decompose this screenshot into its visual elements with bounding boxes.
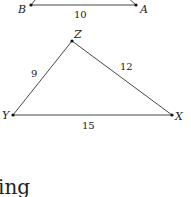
label-x: X [174, 110, 184, 123]
side-zy [13, 41, 72, 115]
triangle-xyz: Z Y X 9 12 15 [2, 28, 184, 131]
vertex-a [134, 3, 137, 6]
side-label-ba: 10 [74, 9, 87, 20]
side-zx [72, 41, 172, 115]
label-a: A [139, 3, 148, 16]
vertex-y [11, 113, 14, 116]
triangle-bac: B A 10 [17, 0, 148, 20]
triangle-figures: B A 10 Z Y X 9 12 15 [0, 0, 191, 197]
label-b: B [17, 3, 26, 16]
vertex-b [29, 3, 32, 6]
label-y: Y [2, 109, 11, 122]
label-z: Z [73, 28, 82, 41]
side-label-zx: 12 [120, 61, 133, 72]
side-label-yx: 15 [82, 120, 95, 131]
vertex-x [170, 113, 173, 116]
body-text-fragment: ing [0, 175, 30, 197]
side-label-zy: 9 [31, 68, 37, 79]
side-a-up [126, 0, 136, 5]
